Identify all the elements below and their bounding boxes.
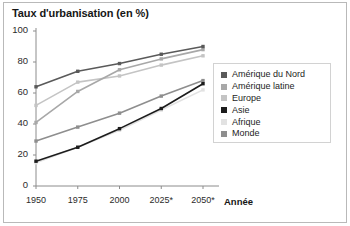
series-marker xyxy=(201,48,204,51)
legend-item: Afrique xyxy=(221,116,330,128)
legend-swatch-icon xyxy=(221,107,227,113)
series-marker xyxy=(34,139,37,142)
legend-item-label: Afrique xyxy=(232,117,261,128)
x-axis-tick-label: 2000 xyxy=(100,195,140,205)
legend-swatch-icon xyxy=(221,72,227,78)
series-marker xyxy=(201,54,204,57)
x-axis-label: Année xyxy=(224,196,253,207)
y-axis-tick-label: 20 xyxy=(2,148,28,159)
legend-item: Amérique latine xyxy=(221,81,330,93)
series-line xyxy=(36,90,203,163)
series-marker xyxy=(160,107,163,110)
legend-item-label: Asie xyxy=(232,105,250,116)
series-marker xyxy=(160,53,163,56)
series-marker xyxy=(118,111,121,114)
series-marker xyxy=(201,82,204,85)
y-axis-tick-label: 80 xyxy=(2,55,28,66)
series-marker xyxy=(118,68,121,71)
legend-swatch-icon xyxy=(221,95,227,101)
legend-item: Monde xyxy=(221,128,330,140)
chart-legend: Amérique du NordAmérique latineEuropeAsi… xyxy=(213,63,331,143)
series-marker xyxy=(76,146,79,149)
legend-item: Amérique du Nord xyxy=(221,69,330,81)
series-marker xyxy=(201,79,204,82)
series-marker xyxy=(76,90,79,93)
urbanisation-chart-figure: Taux d'urbanisation (en %) 020406080100 … xyxy=(0,0,350,226)
series-marker xyxy=(34,104,37,107)
series-marker xyxy=(34,85,37,88)
series-marker xyxy=(76,125,79,128)
legend-item-label: Europe xyxy=(232,93,261,104)
y-axis-tick-label: 40 xyxy=(2,117,28,128)
series-marker xyxy=(201,88,204,91)
series-line xyxy=(36,84,203,162)
series-line xyxy=(36,81,203,141)
series-marker xyxy=(76,70,79,73)
y-axis-tick-label: 0 xyxy=(2,179,28,190)
legend-item-label: Amérique latine xyxy=(232,81,295,92)
legend-swatch-icon xyxy=(221,131,227,137)
legend-item-label: Amérique du Nord xyxy=(232,69,305,80)
legend-item: Asie xyxy=(221,104,330,116)
legend-item-label: Monde xyxy=(232,128,260,139)
series-marker xyxy=(160,94,163,97)
series-marker xyxy=(34,121,37,124)
legend-swatch-icon xyxy=(221,119,227,125)
x-axis-tick-label: 1950 xyxy=(16,195,56,205)
series-marker xyxy=(160,57,163,60)
series-marker xyxy=(118,62,121,65)
series-marker xyxy=(118,74,121,77)
series-marker xyxy=(160,63,163,66)
y-axis-tick-label: 100 xyxy=(2,24,28,35)
legend-swatch-icon xyxy=(221,84,227,90)
series-marker xyxy=(34,160,37,163)
series-marker xyxy=(201,45,204,48)
legend-item: Europe xyxy=(221,93,330,105)
x-axis-tick-label: 2025* xyxy=(141,195,181,205)
y-axis-tick-label: 60 xyxy=(2,86,28,97)
series-marker xyxy=(118,127,121,130)
series-line xyxy=(36,47,203,87)
x-axis-tick-label: 1975 xyxy=(58,195,98,205)
series-marker xyxy=(76,80,79,83)
x-axis-tick-label: 2050* xyxy=(183,195,223,205)
